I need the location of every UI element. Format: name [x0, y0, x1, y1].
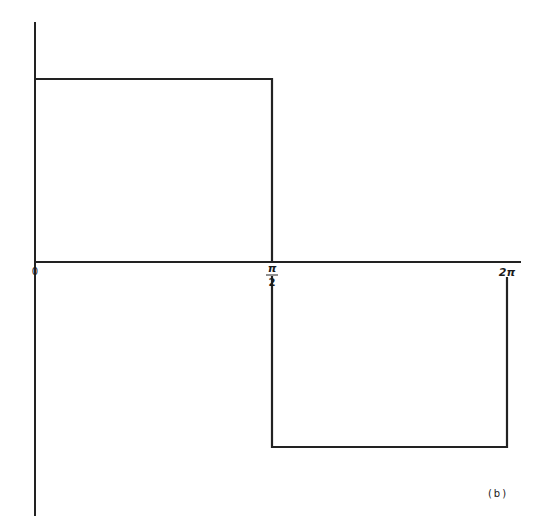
x-tick-label-pi-over-2: π 2: [266, 262, 278, 288]
waveform-low-segment: [272, 276, 507, 447]
svg-text:π: π: [268, 262, 277, 275]
x-tick-label-0: 0: [32, 266, 38, 277]
square-wave-figure: 0 π 2 2π (b): [0, 0, 552, 531]
waveform-high-segment: [35, 79, 272, 262]
x-tick-label-2pi: 2π: [499, 266, 516, 279]
panel-label: (b): [488, 488, 508, 499]
svg-text:2: 2: [269, 277, 276, 288]
